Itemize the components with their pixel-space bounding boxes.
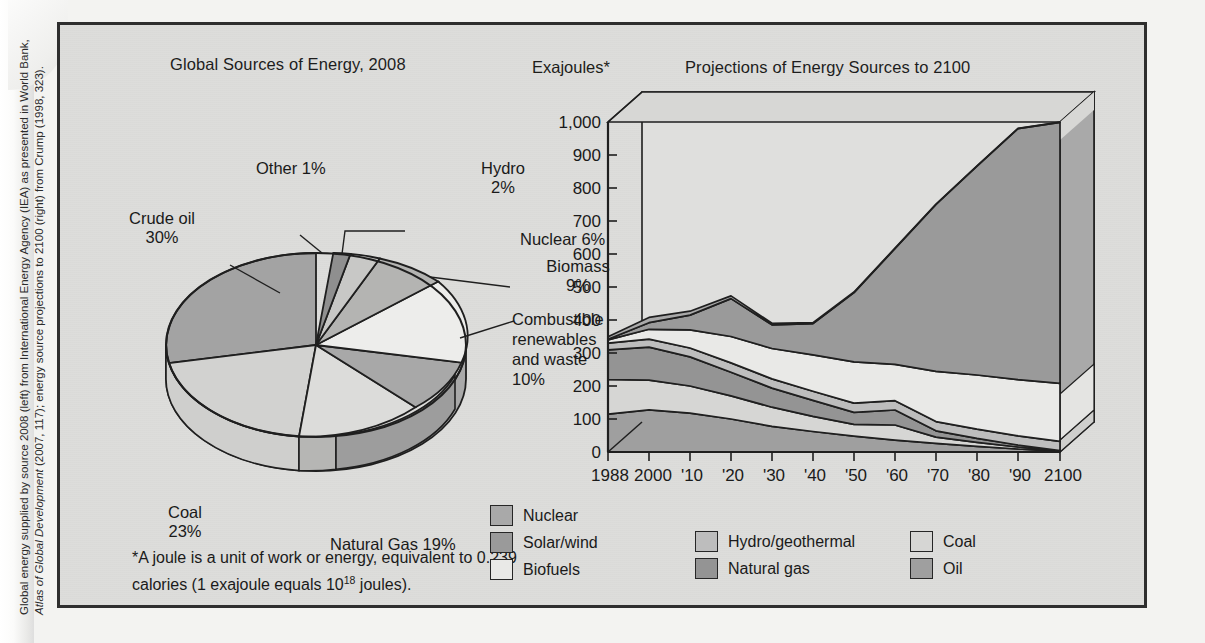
legend-swatch-icon (490, 505, 513, 526)
legend-label: Nuclear (523, 507, 578, 525)
pie-label-coal: Coal 23% (146, 503, 224, 541)
y-tick-400: 400 (573, 311, 601, 330)
y-tick-200: 200 (573, 377, 601, 396)
figure-inner-surface: Global Sources of Energy, 2008 (60, 25, 1144, 605)
legend-item-biofuels[interactable]: Biofuels (490, 559, 598, 580)
x-tick-2040: '40 (804, 466, 826, 485)
pie-chart (130, 205, 550, 495)
y-tick-0: 0 (592, 443, 601, 462)
x-tick-2020: '20 (722, 466, 744, 485)
legend-item-oil[interactable]: Oil (910, 558, 976, 579)
y-tick-1000: 1,000 (558, 113, 601, 132)
pie-slice-crude-oil (166, 253, 316, 363)
legend-swatch-icon (490, 532, 513, 553)
footnote-line-2b: joules). (355, 576, 411, 593)
y-tick-900: 900 (573, 146, 601, 165)
x-tick-2080: '80 (968, 466, 990, 485)
legend-column-3: CoalOil (910, 531, 976, 585)
x-tick-2010: '10 (681, 466, 703, 485)
pie-top-face (166, 253, 468, 437)
pie-label-crude-line2: 30% (145, 228, 178, 246)
legend-column-1: NuclearSolar/windBiofuels (490, 505, 598, 586)
legend-item-coal[interactable]: Coal (910, 531, 976, 552)
legend-swatch-icon (695, 531, 718, 552)
footnote-line-2a: calories (1 exajoule equals 10 (132, 576, 344, 593)
pie-label-coal-line2: 23% (168, 522, 201, 540)
footnote-exponent: 18 (344, 574, 356, 586)
chart-legend: NuclearSolar/windBiofuels Hydro/geotherm… (490, 505, 1130, 605)
area-chart-svg: 0 100 200 300 400 500 600 700 800 900 1,… (500, 80, 1140, 490)
y-axis-tick-labels: 0 100 200 300 400 500 600 700 800 900 1,… (558, 113, 601, 462)
y-tick-700: 700 (573, 212, 601, 231)
x-tick-2050: '50 (845, 466, 867, 485)
x-tick-2070: '70 (927, 466, 949, 485)
y-tick-300: 300 (573, 344, 601, 363)
area-chart: 0 100 200 300 400 500 600 700 800 900 1,… (500, 80, 1140, 490)
legend-label: Oil (943, 560, 963, 578)
footnote: *A joule is a unit of work or energy, eq… (132, 547, 552, 596)
legend-label: Hydro/geothermal (728, 533, 855, 551)
area-chart-y-axis-label: Exajoules* (532, 58, 610, 77)
y-tick-500: 500 (573, 278, 601, 297)
source-caption-italic-title: Atlas of Global Development (33, 469, 45, 615)
legend-swatch-icon (910, 531, 933, 552)
x-axis-tick-labels: 1988 2000 '10 '20 '30 '40 '50 '60 '70 '8… (591, 466, 1082, 485)
legend-swatch-icon (490, 559, 513, 580)
pie-label-crude-line1: Crude oil (129, 209, 195, 227)
figure-frame: Global Sources of Energy, 2008 (57, 22, 1147, 608)
legend-swatch-icon (695, 558, 718, 579)
y-tick-600: 600 (573, 245, 601, 264)
area-chart-title: Projections of Energy Sources to 2100 (685, 58, 970, 77)
pie-label-crude-oil: Crude oil 30% (102, 209, 222, 247)
legend-item-nuclear[interactable]: Nuclear (490, 505, 598, 526)
legend-label: Coal (943, 533, 976, 551)
x-tick-2030: '30 (763, 466, 785, 485)
legend-item-natural-gas[interactable]: Natural gas (695, 558, 855, 579)
pie-chart-svg (130, 205, 550, 495)
legend-swatch-icon (910, 558, 933, 579)
pie-label-other: Other 1% (256, 159, 326, 178)
legend-item-solar-wind[interactable]: Solar/wind (490, 532, 598, 553)
legend-label: Solar/wind (523, 534, 598, 552)
x-tick-2060: '60 (886, 466, 908, 485)
pie-chart-title: Global Sources of Energy, 2008 (170, 55, 406, 74)
legend-label: Natural gas (728, 560, 810, 578)
source-caption-line-1: Global energy supplied by source 2008 (l… (17, 15, 32, 615)
y-tick-800: 800 (573, 179, 601, 198)
x-tick-2100: 2100 (1044, 466, 1082, 485)
footnote-line-1: *A joule is a unit of work or energy, eq… (132, 549, 517, 566)
legend-item-hydro-geothermal[interactable]: Hydro/geothermal (695, 531, 855, 552)
legend-column-2: Hydro/geothermalNatural gas (695, 531, 855, 585)
x-tick-1988: 1988 (591, 466, 629, 485)
x-tick-2090: '90 (1009, 466, 1031, 485)
pie-label-coal-line1: Coal (168, 503, 202, 521)
source-caption-line-2-rest: (2007, 117); energy source projections t… (33, 66, 45, 469)
x-tick-2000: 2000 (634, 466, 672, 485)
x-axis-ticks (608, 452, 1060, 461)
source-caption: Global energy supplied by source 2008 (l… (17, 15, 47, 615)
y-tick-100: 100 (573, 410, 601, 429)
legend-label: Biofuels (523, 561, 580, 579)
